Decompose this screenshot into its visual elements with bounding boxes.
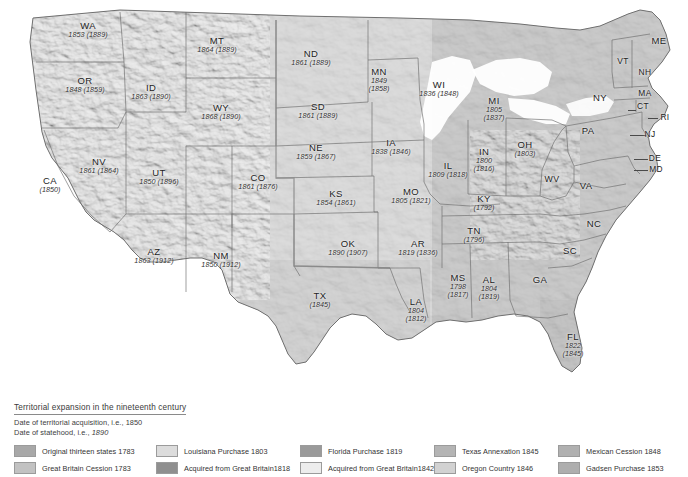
legend-title: Territorial expansion in the nineteenth …	[14, 403, 186, 415]
leader-line-md	[634, 170, 648, 171]
legend-swatch	[434, 462, 456, 474]
legend-item: Acquired from Great Britain1842	[300, 460, 430, 477]
legend-swatch	[300, 462, 322, 474]
legend-item: Florida Purchase 1819	[300, 443, 430, 460]
legend-swatch	[558, 445, 580, 457]
leader-line-ct	[628, 110, 636, 111]
legend-item: Louisiana Purchase 1803	[156, 443, 296, 460]
map-legend: Territorial expansion in the nineteenth …	[14, 396, 674, 477]
legend-label: Acquired from Great Britain1842	[328, 464, 434, 473]
legend-note-statehood-prefix: Date of statehood, i.e.,	[14, 428, 92, 437]
legend-item: Original thirteen states 1783	[14, 443, 152, 460]
legend-item: Acquired from Great Britain1818	[156, 460, 296, 477]
legend-note-acquisition: Date of territorial acquisition, i.e., 1…	[14, 418, 674, 429]
legend-label: Oregon Country 1846	[462, 464, 533, 473]
legend-item: Texas Annexation 1845	[434, 443, 554, 460]
legend-label: Mexican Cession 1848	[586, 447, 661, 456]
legend-swatch	[156, 445, 178, 457]
legend-label: Texas Annexation 1845	[462, 447, 539, 456]
leader-line-ri	[648, 118, 658, 119]
legend-label: Acquired from Great Britain1818	[184, 464, 290, 473]
legend-item: Oregon Country 1846	[434, 460, 554, 477]
legend-swatch	[434, 445, 456, 457]
legend-note-statehood: Date of statehood, i.e., 1890	[14, 428, 674, 439]
us-territorial-expansion-map	[0, 0, 688, 400]
legend-label: Florida Purchase 1819	[328, 447, 402, 456]
legend-item: Gadsen Purchase 1853	[558, 460, 688, 477]
legend-label: Louisiana Purchase 1803	[184, 447, 268, 456]
legend-swatch	[300, 445, 322, 457]
legend-item: Great Britain Cession 1783	[14, 460, 152, 477]
legend-item: Mexican Cession 1848	[558, 443, 688, 460]
legend-swatch	[14, 445, 36, 457]
legend-swatch-grid: Original thirteen states 1783Louisiana P…	[14, 443, 674, 477]
legend-note-statehood-value: 1890	[92, 428, 109, 437]
legend-swatch	[156, 462, 178, 474]
legend-label: Original thirteen states 1783	[42, 447, 135, 456]
leader-line-nj	[630, 135, 646, 136]
leader-line-de	[634, 159, 648, 160]
legend-label: Great Britain Cession 1783	[42, 464, 131, 473]
legend-swatch	[558, 462, 580, 474]
legend-label: Gadsen Purchase 1853	[586, 464, 664, 473]
legend-swatch	[14, 462, 36, 474]
